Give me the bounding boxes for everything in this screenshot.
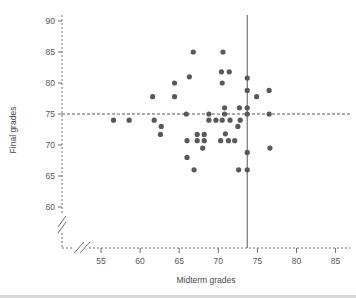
scatter-point [267, 146, 272, 151]
scatter-point [237, 105, 242, 110]
scatter-point [220, 118, 225, 123]
x-tick-label: 70 [214, 256, 224, 266]
scatter-point [111, 118, 116, 123]
scatter-point [191, 49, 196, 54]
scatter-point [195, 132, 200, 137]
scatter-point [232, 138, 237, 143]
x-tick-label: 55 [96, 256, 106, 266]
x-axis-break-icon [74, 242, 90, 253]
scatter-point [172, 80, 177, 85]
scatter-point [159, 124, 164, 129]
scatter-point [235, 124, 240, 129]
reference-lines [62, 15, 350, 248]
scatter-point [150, 94, 155, 99]
scatter-point [184, 138, 189, 143]
scatter-point [206, 118, 211, 123]
scatter-point [191, 167, 196, 172]
data-points [111, 49, 273, 172]
scatter-point [223, 131, 228, 136]
scatter-plot-figure: 60657075808590 55606570758085 Midterm gr… [0, 0, 356, 298]
x-tick-label: 85 [331, 256, 341, 266]
scatter-point [184, 155, 189, 160]
x-axis-title: Midterm grades [176, 275, 235, 285]
y-axis-break-icon [58, 216, 66, 233]
y-axis-ticks [58, 21, 62, 207]
scatter-point [245, 150, 250, 155]
y-axis-title: Final grades [8, 107, 18, 154]
plot-area: 60657075808590 55606570758085 [46, 15, 350, 266]
scatter-point [152, 118, 157, 123]
scatter-point [218, 138, 223, 143]
scatter-point [220, 80, 225, 85]
y-tick-label: 60 [46, 202, 56, 212]
x-axis-tick-labels: 55606570758085 [96, 256, 340, 266]
y-tick-label: 70 [46, 140, 56, 150]
scatter-point [200, 146, 205, 151]
scatter-point [238, 118, 243, 123]
scatter-point [202, 132, 207, 137]
y-tick-label: 90 [46, 16, 56, 26]
scatter-point [226, 138, 231, 143]
scatter-point [254, 94, 259, 99]
y-axis-tick-labels: 60657075808590 [46, 16, 56, 212]
y-tick-label: 85 [46, 47, 56, 57]
scatter-point [127, 118, 132, 123]
scatter-point [206, 111, 211, 116]
scatter-point [158, 132, 163, 137]
x-tick-label: 75 [253, 256, 263, 266]
x-tick-label: 60 [135, 256, 145, 266]
y-tick-label: 75 [46, 109, 56, 119]
x-tick-label: 80 [292, 256, 302, 266]
scatter-point [227, 69, 232, 74]
scatter-point [222, 111, 227, 116]
y-tick-label: 80 [46, 78, 56, 88]
scatter-point [219, 69, 224, 74]
x-axis-ticks [101, 248, 336, 253]
scatter-point [220, 49, 225, 54]
scatter-point [172, 94, 177, 99]
scatter-point [267, 88, 272, 93]
scatter-point [236, 167, 241, 172]
chart-svg: 60657075808590 55606570758085 Midterm gr… [0, 0, 356, 298]
scatter-point [184, 111, 189, 116]
scatter-point [245, 167, 250, 172]
scatter-point [245, 88, 250, 93]
x-tick-label: 65 [174, 256, 184, 266]
scatter-point [227, 118, 232, 123]
scatter-point [245, 75, 250, 80]
scatter-point [245, 105, 250, 110]
scatter-point [222, 105, 227, 110]
scatter-point [267, 111, 272, 116]
scatter-point [245, 111, 250, 116]
scatter-point [195, 138, 200, 143]
scatter-point [187, 74, 192, 79]
y-tick-label: 65 [46, 171, 56, 181]
scatter-point [202, 138, 207, 143]
scatter-point [213, 118, 218, 123]
